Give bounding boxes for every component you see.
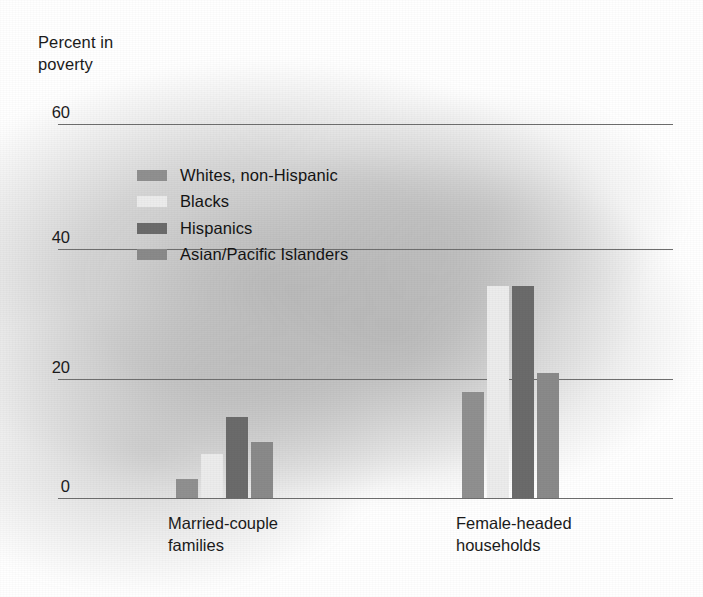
- ytick-label-0: 0: [36, 477, 70, 496]
- legend-swatch-asian: [137, 249, 167, 260]
- bar-hispanics-group-1[interactable]: [512, 286, 534, 498]
- bar-asian-pacific-islanders-group-0[interactable]: [251, 442, 273, 498]
- bar-hispanics-group-0[interactable]: [226, 417, 248, 498]
- bar-asian-pacific-islanders-group-1[interactable]: [537, 373, 559, 498]
- legend-swatch-hispanics: [137, 223, 167, 234]
- ytick-label-60: 60: [36, 103, 70, 122]
- bar-blacks-group-0[interactable]: [201, 454, 223, 498]
- poverty-bar-chart: Percent in poverty 60 40 20 0 Whites, no…: [0, 0, 703, 597]
- xaxis-label-female-headed: Female-headed households: [456, 513, 572, 557]
- bar-group-married-couple: [176, 0, 296, 498]
- bar-whites-non-hispanic-group-0[interactable]: [176, 479, 198, 498]
- y-axis-title: Percent in poverty: [38, 32, 113, 76]
- ytick-label-40: 40: [36, 228, 70, 247]
- legend-swatch-whites: [137, 170, 167, 181]
- xaxis-label-married-couple: Married-couple families: [168, 513, 278, 557]
- ytick-label-20: 20: [36, 358, 70, 377]
- bar-whites-non-hispanic-group-1[interactable]: [462, 392, 484, 498]
- bar-blacks-group-1[interactable]: [487, 286, 509, 498]
- gridline-0-baseline: [58, 498, 673, 499]
- legend-swatch-blacks: [137, 196, 167, 207]
- bar-group-female-headed: [462, 0, 582, 498]
